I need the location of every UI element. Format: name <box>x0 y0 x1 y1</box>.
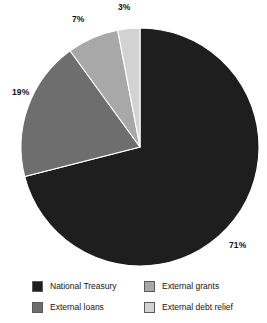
pie-label-external-debt-relief: 3% <box>118 3 131 12</box>
legend-item-label: National Treasury <box>50 282 117 291</box>
chart-legend: National Treasury External grants Extern… <box>32 276 256 318</box>
legend-item-external-debt-relief[interactable]: External debt relief <box>144 302 256 313</box>
pie-label-national-treasury: 71% <box>229 241 246 250</box>
legend-swatch-icon <box>144 281 155 292</box>
pie-svg <box>0 0 267 272</box>
pie-label-external-grants: 7% <box>72 15 85 24</box>
legend-swatch-icon <box>32 302 43 313</box>
pie-chart-figure: 71% 19% 7% 3% National Treasury External… <box>0 0 267 323</box>
pie-plot-area: 71% 19% 7% 3% <box>0 0 267 272</box>
legend-item-label: External loans <box>50 303 104 312</box>
legend-item-external-loans[interactable]: External loans <box>32 302 144 313</box>
legend-swatch-icon <box>32 281 43 292</box>
legend-item-national-treasury[interactable]: National Treasury <box>32 281 144 292</box>
legend-item-label: External debt relief <box>162 303 233 312</box>
legend-item-label: External grants <box>162 282 219 291</box>
legend-item-external-grants[interactable]: External grants <box>144 281 256 292</box>
pie-label-external-loans: 19% <box>12 88 29 97</box>
legend-swatch-icon <box>144 302 155 313</box>
